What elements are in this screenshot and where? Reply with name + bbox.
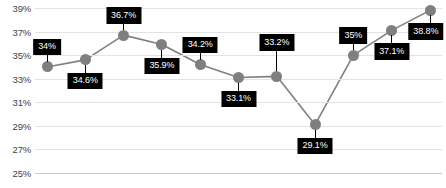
y-axis: 39%37%35%33%31%29%27%25% xyxy=(0,0,31,188)
data-point-label: 38.8% xyxy=(408,23,443,40)
label-leader-line xyxy=(238,83,239,91)
label-leader-line xyxy=(430,15,431,23)
data-point-label: 34.2% xyxy=(183,37,218,54)
y-axis-tick-label: 37% xyxy=(13,26,31,37)
y-axis-tick-label: 33% xyxy=(13,73,31,84)
y-axis-tick-label: 25% xyxy=(13,168,31,179)
data-point-marker[interactable] xyxy=(425,5,436,16)
data-point-label: 35.9% xyxy=(144,58,179,75)
data-point-marker[interactable] xyxy=(118,30,129,41)
gridline xyxy=(35,173,442,174)
data-point-label: 29.1% xyxy=(298,138,333,155)
label-leader-line xyxy=(161,50,162,58)
y-axis-tick-label: 35% xyxy=(13,50,31,61)
data-point-label: 34.6% xyxy=(68,73,103,90)
data-point-marker[interactable] xyxy=(310,119,321,130)
data-point-label: 37.1% xyxy=(374,43,409,60)
data-point-label: 35% xyxy=(340,27,368,44)
data-point-label: 33.1% xyxy=(221,91,256,108)
data-point-marker[interactable] xyxy=(233,72,244,83)
data-point-marker[interactable] xyxy=(386,25,397,36)
gridline xyxy=(35,126,442,127)
data-point-label: 33.2% xyxy=(259,34,294,51)
gridline xyxy=(35,149,442,150)
label-leader-line xyxy=(85,65,86,73)
y-axis-tick-label: 39% xyxy=(13,3,31,14)
y-axis-tick-label: 27% xyxy=(13,144,31,155)
label-leader-line xyxy=(391,35,392,43)
data-point-label: 34% xyxy=(33,39,61,56)
label-leader-line xyxy=(276,49,277,71)
data-point-marker[interactable] xyxy=(348,50,359,61)
gridline xyxy=(35,8,442,9)
data-point-marker[interactable] xyxy=(42,61,53,72)
data-point-label: 36.7% xyxy=(106,7,141,24)
y-axis-tick-label: 29% xyxy=(13,120,31,131)
plot-area: 34%34.6%36.7%35.9%34.2%33.1%33.2%29.1%35… xyxy=(35,8,442,173)
line-chart: 39%37%35%33%31%29%27%25% 34%34.6%36.7%35… xyxy=(0,0,446,188)
y-axis-tick-label: 31% xyxy=(13,97,31,108)
label-leader-line xyxy=(315,130,316,138)
data-point-marker[interactable] xyxy=(195,59,206,70)
gridline xyxy=(35,32,442,33)
